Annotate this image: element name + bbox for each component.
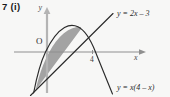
x-axis-label: x [133, 53, 138, 62]
graph-canvas: O y x 4 y = 2x – 3 y = x(4 – x) [0, 0, 170, 97]
y-axis-arrowhead [44, 7, 51, 14]
origin-label: O [36, 36, 43, 46]
x-tick-label-4: 4 [90, 55, 94, 64]
parabola-equation-label: y = x(4 – x) [116, 83, 155, 92]
figure-container: 7 (i) O y x 4 y = 2x – 3 y = x(4 – x) [0, 0, 170, 97]
x-axis-arrowhead [139, 49, 146, 54]
y-axis-label: y [38, 3, 43, 12]
line-equation-label: y = 2x – 3 [116, 9, 150, 18]
